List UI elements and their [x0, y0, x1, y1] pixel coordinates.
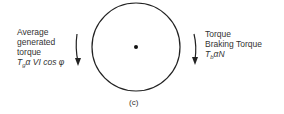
- right-label-line: Braking Torque: [205, 39, 262, 49]
- right-label-line: Torque: [205, 29, 262, 39]
- left-label-line: generated: [17, 37, 64, 47]
- figure-caption: (c): [129, 98, 138, 108]
- left-torque-arrow-icon: [75, 34, 81, 66]
- braking-torque-equation: TbαN: [205, 49, 262, 62]
- generated-torque-equation: Tgα VI cos φ: [17, 57, 64, 70]
- left-label-line: Average: [17, 27, 64, 37]
- left-torque-label: Average generated torque Tgα VI cos φ: [17, 27, 64, 70]
- right-torque-arrow-icon: [192, 34, 198, 65]
- left-label-line: torque: [17, 47, 64, 57]
- right-torque-label: Torque Braking Torque TbαN: [205, 29, 262, 62]
- center-dot: [134, 45, 138, 49]
